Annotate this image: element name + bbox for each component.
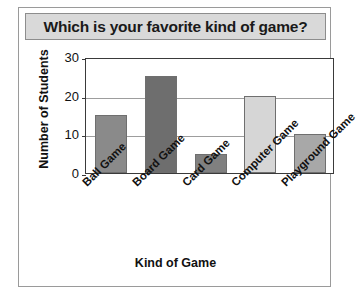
y-axis-tick-30: 30: [53, 51, 79, 64]
chart-card: Which is your favorite kind of game? Num…: [18, 7, 331, 287]
plot-area: Number of Students 0102030 Ball GameBoar…: [19, 44, 332, 288]
y-axis-tick-10: 10: [53, 128, 79, 141]
page-title: Which is your favorite kind of game?: [43, 18, 307, 36]
chart-title-banner: Which is your favorite kind of game?: [25, 13, 326, 40]
x-axis-title: Kind of Game: [19, 256, 332, 270]
y-axis-tick-20: 20: [53, 90, 79, 103]
y-axis-title: Number of Students: [37, 44, 51, 174]
x-axis-tick-labels: Ball GameBoard GameCard GameComputer Gam…: [19, 176, 332, 252]
